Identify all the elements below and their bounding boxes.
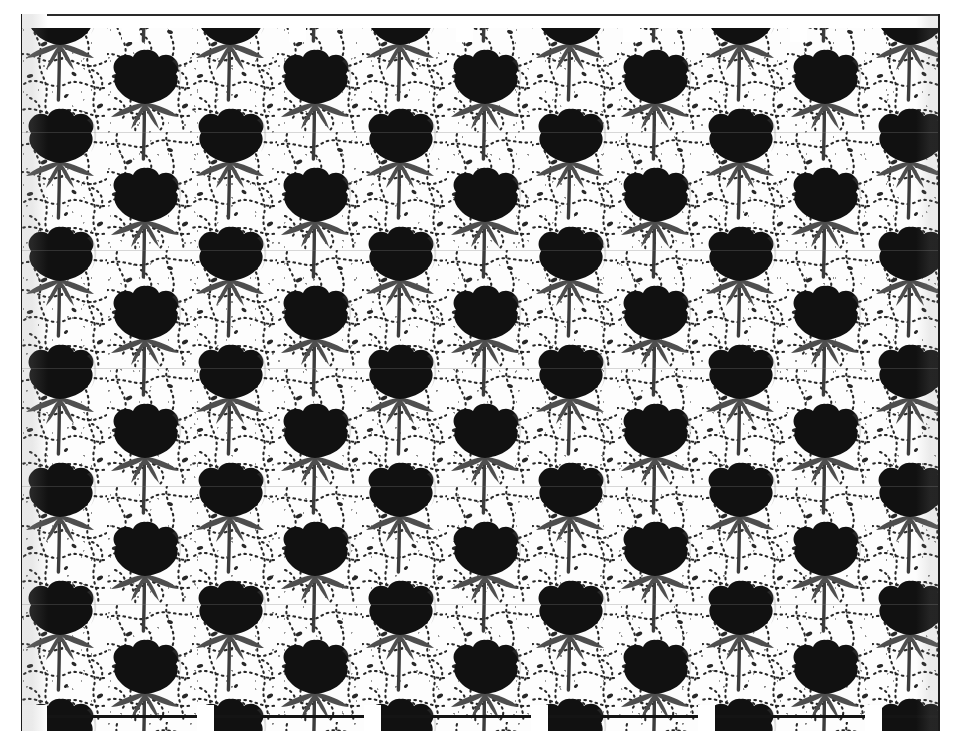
tile-base-rule bbox=[214, 715, 364, 718]
scan-band bbox=[22, 486, 938, 487]
scanned-plate bbox=[22, 14, 938, 731]
scan-band bbox=[22, 250, 938, 251]
tile-base-rule bbox=[548, 715, 698, 718]
swatch-canvas: Floral block-printed fabric pattern bbox=[0, 0, 961, 745]
flower-motif bbox=[357, 578, 443, 696]
flower-motif bbox=[697, 578, 783, 696]
flower-motif bbox=[102, 401, 188, 519]
flower-motif bbox=[782, 283, 868, 401]
flower-motif bbox=[697, 224, 783, 342]
tile-seam-notch-top bbox=[790, 14, 807, 42]
plate-right-rule bbox=[938, 14, 940, 731]
flower-motif bbox=[22, 460, 103, 578]
flower-motif bbox=[272, 165, 358, 283]
flower-motif bbox=[357, 342, 443, 460]
scan-band bbox=[22, 368, 938, 369]
tile-head-rule bbox=[882, 14, 938, 16]
flower-motif bbox=[527, 460, 613, 578]
flower-motif bbox=[442, 401, 528, 519]
tile-seam-notch-bottom bbox=[865, 705, 882, 731]
tile-seam-notch-bottom bbox=[698, 705, 715, 731]
flower-motif bbox=[612, 283, 698, 401]
flower-motif bbox=[272, 47, 358, 165]
pattern-field bbox=[22, 14, 938, 731]
flower-motif bbox=[357, 106, 443, 224]
flower-motif bbox=[782, 519, 868, 637]
flower-motif bbox=[867, 578, 938, 696]
flower-motif bbox=[527, 342, 613, 460]
flower-motif bbox=[442, 519, 528, 637]
tile-seam-notch-bottom bbox=[531, 705, 548, 731]
flower-motif bbox=[187, 106, 273, 224]
flower-motif bbox=[187, 578, 273, 696]
flower-motif bbox=[442, 165, 528, 283]
tile-seam-notch-top bbox=[456, 14, 473, 42]
flower-motif bbox=[612, 519, 698, 637]
tile-head-rule bbox=[381, 14, 548, 16]
flower-motif bbox=[102, 519, 188, 637]
flower-motif bbox=[782, 401, 868, 519]
flower-motif bbox=[357, 224, 443, 342]
flower-motif bbox=[697, 342, 783, 460]
flower-motif bbox=[867, 460, 938, 578]
flower-motif bbox=[782, 165, 868, 283]
flower-motif bbox=[697, 460, 783, 578]
tile-base-rule bbox=[381, 715, 531, 718]
flower-motif bbox=[187, 460, 273, 578]
tile-seam-notch-bottom bbox=[364, 705, 381, 731]
flower-motif bbox=[187, 342, 273, 460]
tile-seam-notch-top bbox=[122, 14, 139, 42]
tile-head-rule bbox=[548, 14, 715, 16]
tile-head-rule bbox=[214, 14, 381, 16]
flower-motif bbox=[867, 342, 938, 460]
flower-motif bbox=[867, 224, 938, 342]
flower-motif bbox=[22, 224, 103, 342]
flower-motif bbox=[527, 224, 613, 342]
flower-motif bbox=[867, 106, 938, 224]
flower-motif bbox=[272, 519, 358, 637]
flower-motif bbox=[102, 283, 188, 401]
flower-motif bbox=[527, 578, 613, 696]
flower-motif bbox=[612, 47, 698, 165]
tile-head-rule bbox=[715, 14, 882, 16]
flower-motif bbox=[697, 106, 783, 224]
flower-motif bbox=[102, 165, 188, 283]
tile-seam-notch-bottom bbox=[22, 705, 47, 731]
flower-motif bbox=[357, 460, 443, 578]
flower-motif bbox=[272, 283, 358, 401]
flower-motif bbox=[22, 342, 103, 460]
tile-base-rule bbox=[882, 715, 938, 718]
scan-band bbox=[22, 604, 938, 605]
flower-motif bbox=[527, 106, 613, 224]
flower-motif bbox=[612, 401, 698, 519]
flower-motif bbox=[612, 165, 698, 283]
tile-seam-notch-top bbox=[623, 14, 640, 42]
tile-base-rule bbox=[715, 715, 865, 718]
flower-motif bbox=[22, 106, 103, 224]
flower-motif bbox=[187, 224, 273, 342]
flower-motif bbox=[442, 283, 528, 401]
flower-motif bbox=[102, 47, 188, 165]
flower-motif bbox=[22, 578, 103, 696]
flower-motif bbox=[782, 47, 868, 165]
tile-seam-notch-top bbox=[289, 14, 306, 42]
tile-head-rule bbox=[47, 14, 214, 16]
flower-motif bbox=[442, 47, 528, 165]
tile-base-rule bbox=[47, 715, 197, 718]
tile-seam-notch-bottom bbox=[197, 705, 214, 731]
flower-motif bbox=[272, 401, 358, 519]
scan-band bbox=[22, 132, 938, 133]
